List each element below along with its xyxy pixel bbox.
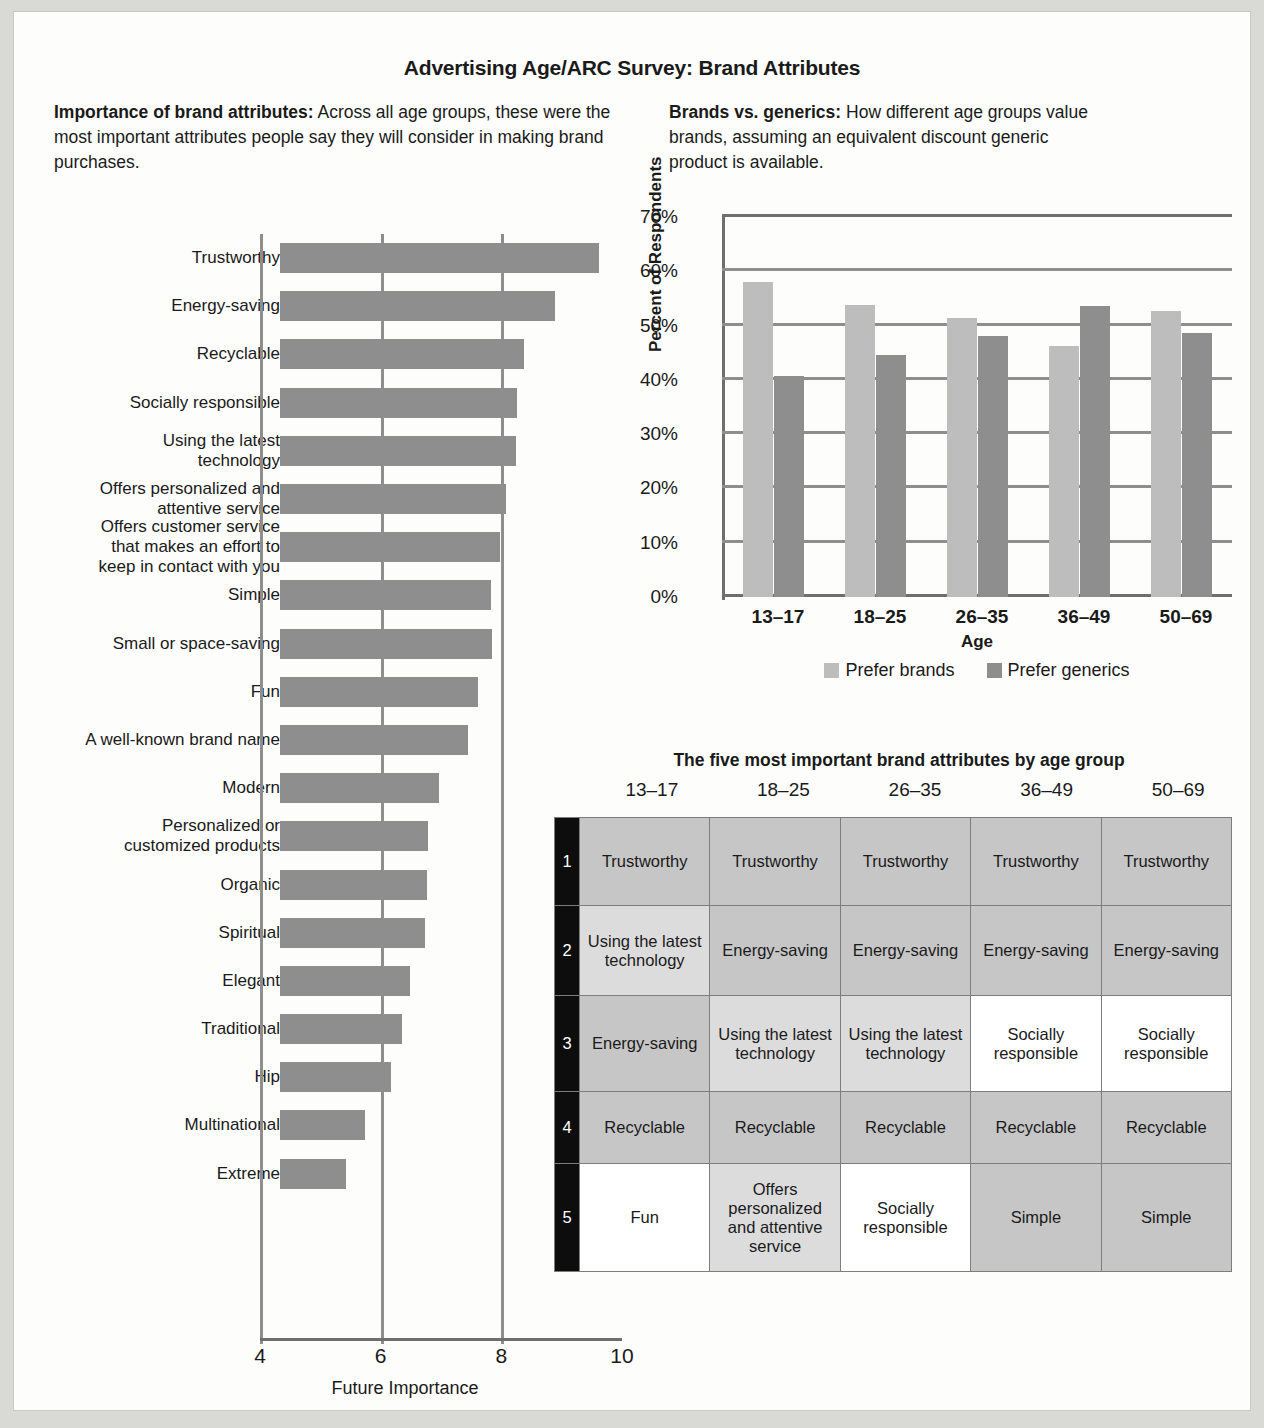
table-cell: Energy-saving [840,906,970,996]
table-cell: Simple [1101,1164,1231,1272]
table-cell: Trustworthy [1101,818,1231,906]
horizontal-bar [280,773,439,803]
table-row: 3Energy-savingUsing the latest technolog… [555,996,1232,1092]
horizontal-bar-xtick: 6 [375,1344,387,1368]
column-chart-ytick: 30% [640,423,678,445]
horizontal-bar-label: Fun [50,682,280,702]
column-chart-bar [1151,311,1181,597]
table-cell: Fun [580,1164,710,1272]
horizontal-bar-label: Small or space-saving [50,634,280,654]
column-chart-group [926,217,1028,597]
column-chart-ytick: 70% [640,206,678,228]
horizontal-bar-row: Small or space-saving [34,620,654,668]
horizontal-bar [280,532,500,562]
horizontal-bar-label: Simple [50,585,280,605]
horizontal-bar [280,821,428,851]
horizontal-bar-label: Traditional [50,1019,280,1039]
column-chart-ytick: 40% [640,369,678,391]
column-chart-xtick: 50–69 [1160,606,1213,628]
column-chart-ytick: 20% [640,477,678,499]
horizontal-bar [280,677,478,707]
table-column-headers: 13–1718–2526–3536–4950–69 [554,779,1244,813]
table-cell: Socially responsible [840,1164,970,1272]
horizontal-bar [280,1159,346,1189]
horizontal-bar-row: Fun [34,668,654,716]
horizontal-bar-xtick: 4 [254,1344,266,1368]
column-chart-bar [1049,346,1079,597]
legend-swatch-icon [824,663,839,678]
table-rank-cell: 3 [555,996,580,1092]
left-panel-heading: Importance of brand attributes: [54,102,314,122]
attributes-by-age-table-section: The five most important brand attributes… [554,750,1244,1272]
column-chart-legend: Prefer brandsPrefer generics [722,660,1232,681]
horizontal-bar [280,966,410,996]
table-row: 1TrustworthyTrustworthyTrustworthyTrustw… [555,818,1232,906]
table-column-header: 18–25 [757,779,810,801]
horizontal-bar [280,870,427,900]
horizontal-bar-track [280,571,654,619]
table-cell: Energy-saving [710,906,840,996]
horizontal-bar-track [280,234,654,282]
table-cell: Using the latest technology [710,996,840,1092]
horizontal-bar [280,436,516,466]
table-cell: Energy-saving [1101,906,1231,996]
column-chart-xtick: 18–25 [854,606,907,628]
horizontal-bar-label: Socially responsible [50,393,280,413]
horizontal-bar-label: Recyclable [50,344,280,364]
column-chart-ytick: 50% [640,315,678,337]
table-rank-cell: 2 [555,906,580,996]
table-cell: Trustworthy [971,818,1101,906]
column-chart-group [1028,217,1130,597]
horizontal-bar [280,725,468,755]
column-chart-bar [1080,306,1110,598]
horizontal-bar-row: Using the latesttechnology [34,427,654,475]
column-chart-group [722,217,824,597]
horizontal-bar-label: Offers customer servicethat makes an eff… [50,517,280,577]
legend-item: Prefer brands [824,660,954,681]
left-panel-intro: Importance of brand attributes: Across a… [54,100,629,175]
table-cell: Recyclable [580,1092,710,1164]
horizontal-bar [280,1062,391,1092]
horizontal-bar-axis-line [260,1338,622,1341]
table-cell: Recyclable [710,1092,840,1164]
table-column-header: 13–17 [625,779,678,801]
column-chart-xtick: 13–17 [752,606,805,628]
column-chart-bar [1182,333,1212,597]
right-panel-intro: Brands vs. generics: How different age g… [669,100,1089,175]
column-chart-xaxis-label: Age [722,632,1232,652]
horizontal-bar-label: Energy-saving [50,296,280,316]
table-cell: Recyclable [1101,1092,1231,1164]
horizontal-bar-row: Energy-saving [34,282,654,330]
brands-vs-generics-chart: Percent of Respondents 13–1718–2526–3536… [654,202,1254,622]
horizontal-bar [280,243,599,273]
column-chart-group [824,217,926,597]
horizontal-bar-track [280,475,654,523]
legend-label: Prefer generics [1008,660,1130,680]
attributes-by-age-table: 1TrustworthyTrustworthyTrustworthyTrustw… [554,817,1232,1272]
table-column-header: 50–69 [1152,779,1205,801]
table-rank-cell: 4 [555,1092,580,1164]
legend-swatch-icon [987,663,1002,678]
horizontal-bar-track [280,330,654,378]
table-cell: Simple [971,1164,1101,1272]
horizontal-bar-label: Using the latesttechnology [50,431,280,471]
table-cell: Trustworthy [840,818,970,906]
column-chart-xtick: 36–49 [1058,606,1111,628]
column-chart-bar [978,336,1008,597]
table-column-header: 36–49 [1020,779,1073,801]
legend-label: Prefer brands [845,660,954,680]
table-row: 2Using the latest technologyEnergy-savin… [555,906,1232,996]
horizontal-bar-label: Spiritual [50,923,280,943]
horizontal-bar-track [280,620,654,668]
horizontal-bar-track [280,523,654,571]
column-chart-bar [947,318,977,597]
horizontal-bar-label: Extreme [50,1164,280,1184]
table-row: 5FunOffers personalized and attentive se… [555,1164,1232,1272]
horizontal-bar-label: Trustworthy [50,248,280,268]
horizontal-bar-label: Hip [50,1067,280,1087]
column-chart-ytick: 10% [640,532,678,554]
table-cell: Energy-saving [580,996,710,1092]
table-cell: Recyclable [840,1092,970,1164]
horizontal-bar-row: Simple [34,571,654,619]
horizontal-bar [280,580,491,610]
